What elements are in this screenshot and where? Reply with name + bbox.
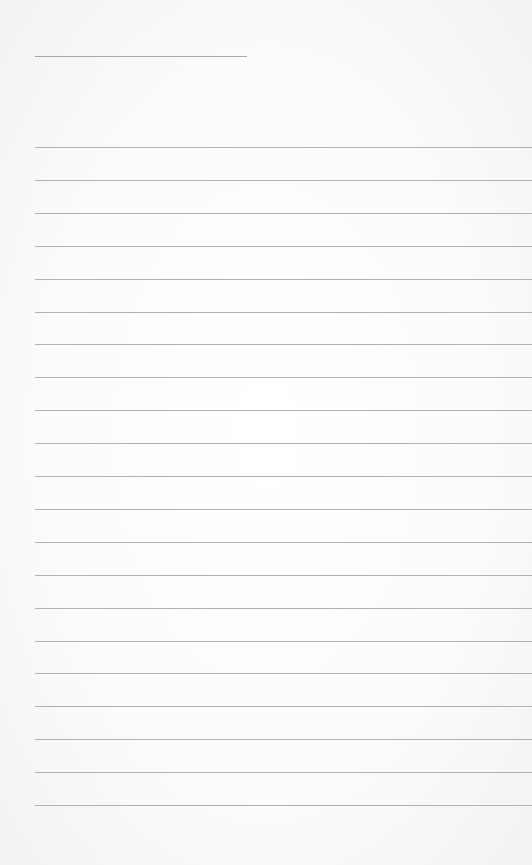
ruled-line bbox=[35, 279, 532, 280]
ruled-line bbox=[35, 476, 532, 477]
ruled-line bbox=[35, 443, 532, 444]
ruled-line bbox=[35, 344, 532, 345]
ruled-line bbox=[35, 608, 532, 609]
ruled-line bbox=[35, 246, 532, 247]
ruled-line bbox=[35, 706, 532, 707]
ruled-line bbox=[35, 739, 532, 740]
lined-paper-page bbox=[0, 0, 532, 865]
ruled-line bbox=[35, 213, 532, 214]
ruled-line bbox=[35, 542, 532, 543]
ruled-line bbox=[35, 377, 532, 378]
ruled-line bbox=[35, 641, 532, 642]
ruled-line bbox=[35, 509, 532, 510]
ruled-line bbox=[35, 575, 532, 576]
ruled-line bbox=[35, 180, 532, 181]
ruled-line bbox=[35, 772, 532, 773]
ruled-line bbox=[35, 805, 532, 806]
ruled-line bbox=[35, 147, 532, 148]
ruled-line bbox=[35, 312, 532, 313]
ruled-line bbox=[35, 673, 532, 674]
ruled-line bbox=[35, 410, 532, 411]
header-name-line bbox=[35, 56, 247, 57]
